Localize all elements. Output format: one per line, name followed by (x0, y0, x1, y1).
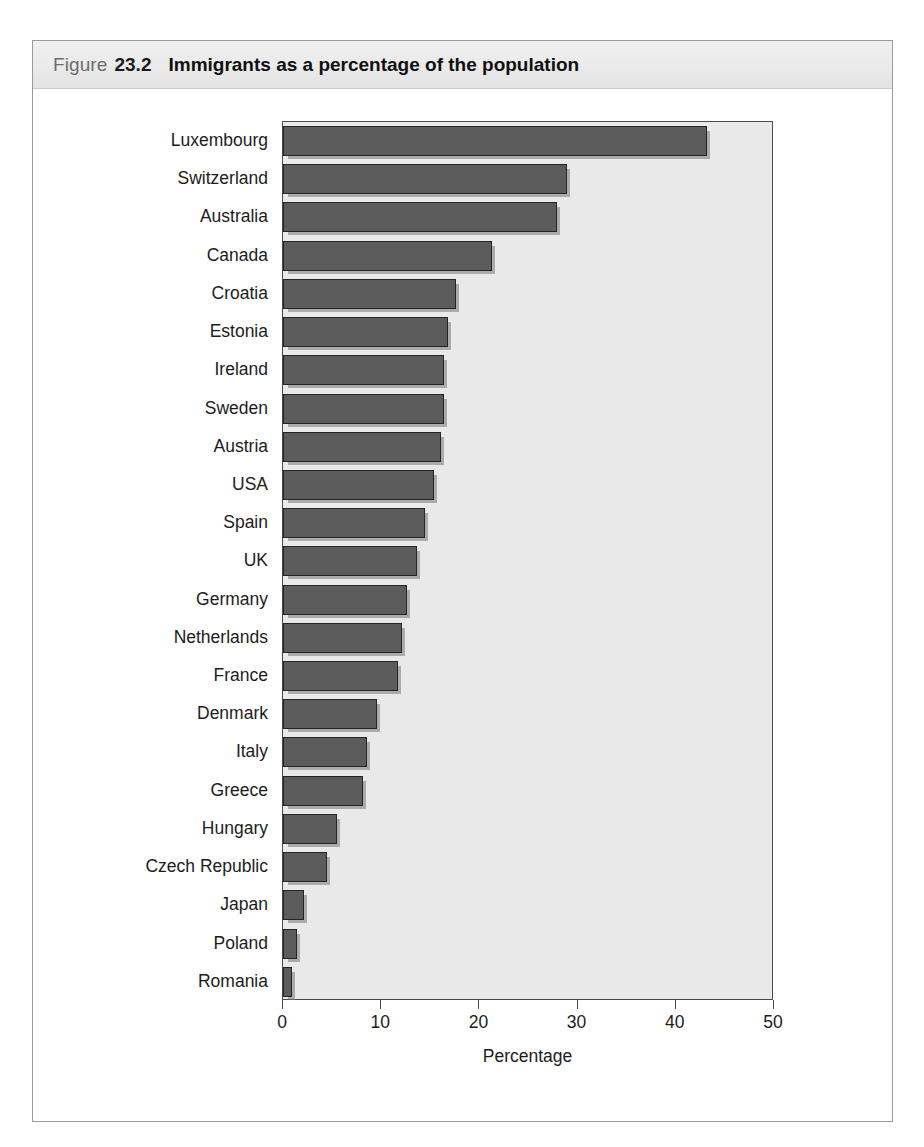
category-label: Ireland (214, 350, 268, 388)
category-label: France (214, 656, 268, 694)
bar-row (283, 237, 772, 275)
bar (283, 241, 492, 271)
bar (283, 355, 444, 385)
bar (283, 470, 434, 500)
bar (283, 546, 417, 576)
bar (283, 814, 337, 844)
chart-region: LuxembourgSwitzerlandAustraliaCanadaCroa… (33, 89, 894, 1122)
category-label: Spain (223, 503, 268, 541)
x-tick-label: 10 (370, 1012, 389, 1033)
bars-layer (283, 122, 772, 999)
x-tick-label: 40 (665, 1012, 684, 1033)
x-tick-mark (577, 1000, 578, 1009)
bar (283, 432, 441, 462)
bar-row (283, 351, 772, 389)
bar-row (283, 160, 772, 198)
category-label: Croatia (212, 274, 268, 312)
bar (283, 317, 448, 347)
bar (283, 776, 363, 806)
bar (283, 737, 367, 767)
bar-row (283, 198, 772, 236)
x-tick-label: 0 (277, 1012, 287, 1033)
bar (283, 126, 707, 156)
x-tick-mark (773, 1000, 774, 1009)
x-tick-mark (675, 1000, 676, 1009)
bar-row (283, 848, 772, 886)
category-label: Poland (214, 924, 269, 962)
category-label: Sweden (205, 389, 268, 427)
x-axis: 01020304050 (282, 1000, 773, 1030)
x-tick-label: 50 (763, 1012, 782, 1033)
category-label: Austria (214, 427, 268, 465)
bar (283, 394, 444, 424)
category-label: Italy (236, 732, 268, 770)
bar-row (283, 925, 772, 963)
category-label: Estonia (210, 312, 268, 350)
bar (283, 164, 567, 194)
category-label: Denmark (197, 694, 268, 732)
bar (283, 929, 297, 959)
bar (283, 623, 402, 653)
category-label: Czech Republic (145, 847, 268, 885)
bar-row (283, 504, 772, 542)
bar-row (283, 886, 772, 924)
category-label: Germany (196, 580, 268, 618)
bar (283, 661, 398, 691)
bar-row (283, 466, 772, 504)
figure-frame: Figure 23.2 Immigrants as a percentage o… (32, 40, 893, 1122)
bar (283, 699, 377, 729)
category-label: Switzerland (178, 159, 268, 197)
bar-row (283, 810, 772, 848)
bar (283, 967, 292, 997)
bar-row (283, 313, 772, 351)
bar-row (283, 619, 772, 657)
bar (283, 279, 456, 309)
category-labels: LuxembourgSwitzerlandAustraliaCanadaCroa… (33, 121, 276, 1000)
x-tick-label: 20 (469, 1012, 488, 1033)
bar (283, 202, 557, 232)
bar-row (283, 695, 772, 733)
category-label: Hungary (202, 809, 268, 847)
figure-title: Immigrants as a percentage of the popula… (168, 54, 579, 76)
category-label: Luxembourg (171, 121, 268, 159)
bar-row (283, 542, 772, 580)
category-label: Greece (211, 771, 268, 809)
category-label: Australia (200, 197, 268, 235)
figure-header: Figure 23.2 Immigrants as a percentage o… (33, 41, 892, 89)
bar-row (283, 122, 772, 160)
bar (283, 585, 407, 615)
bar-row (283, 275, 772, 313)
x-tick-label: 30 (567, 1012, 586, 1033)
category-label: UK (244, 541, 268, 579)
category-label: USA (232, 465, 268, 503)
bar (283, 508, 425, 538)
category-label: Canada (207, 236, 268, 274)
x-tick-mark (380, 1000, 381, 1009)
bar (283, 890, 304, 920)
bar-row (283, 581, 772, 619)
figure-label-word: Figure (53, 54, 107, 76)
bar-row (283, 733, 772, 771)
bar-row (283, 963, 772, 1001)
category-label: Romania (198, 962, 268, 1000)
bar-row (283, 390, 772, 428)
category-label: Netherlands (174, 618, 268, 656)
bar-row (283, 428, 772, 466)
figure-number: 23.2 (114, 54, 151, 76)
bar-row (283, 657, 772, 695)
bar-row (283, 772, 772, 810)
x-axis-title: Percentage (282, 1046, 773, 1067)
x-tick-mark (478, 1000, 479, 1009)
x-tick-mark (282, 1000, 283, 1009)
bar (283, 852, 327, 882)
plot-area (282, 121, 773, 1000)
category-label: Japan (220, 885, 268, 923)
